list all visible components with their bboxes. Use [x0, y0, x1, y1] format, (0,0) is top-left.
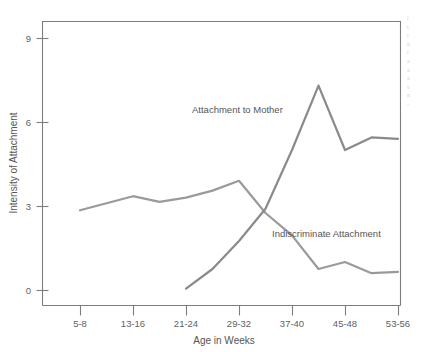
x-axis-tick-labels: 5-8 13-16 21-24 29-32 37-40 45-48 53-56 — [73, 318, 410, 329]
y-tick-label-0: 0 — [26, 285, 31, 296]
y-tick-label-9: 9 — [26, 33, 31, 44]
x-tick-label-53-56: 53-56 — [386, 318, 410, 329]
y-axis-title: Intensity of Attachment — [8, 112, 19, 213]
x-tick-label-29-32: 29-32 — [227, 318, 251, 329]
y-tick-label-6: 6 — [26, 117, 31, 128]
series-line-attachment-to-mother — [186, 86, 398, 289]
page-margin-text-sliver: itrnraaasn- — [407, 14, 427, 109]
annotation-attachment-to-mother: Attachment to Mother — [192, 104, 283, 115]
figure-container: 9 6 3 0 Intensity of Attachment 5-8 13-1… — [0, 0, 428, 352]
x-tick-label-37-40: 37-40 — [280, 318, 304, 329]
x-tick-label-13-16: 13-16 — [121, 318, 145, 329]
y-tick-label-3: 3 — [26, 201, 31, 212]
x-tick-label-45-48: 45-48 — [333, 318, 357, 329]
attachment-intensity-line-chart: 9 6 3 0 Intensity of Attachment 5-8 13-1… — [0, 0, 428, 352]
series-line-indiscriminate-attachment — [80, 181, 398, 273]
x-tick-label-5-8: 5-8 — [73, 318, 87, 329]
annotation-indiscriminate-attachment: Indiscriminate Attachment — [272, 228, 381, 239]
x-tick-label-21-24: 21-24 — [174, 318, 198, 329]
x-axis-ticks — [81, 306, 399, 316]
y-axis-tick-labels: 9 6 3 0 — [26, 33, 31, 296]
x-axis-title: Age in Weeks — [193, 335, 255, 346]
